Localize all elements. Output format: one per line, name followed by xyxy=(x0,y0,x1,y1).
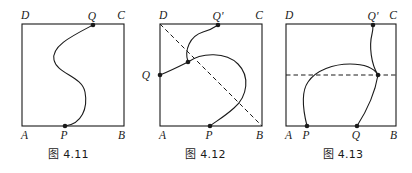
corner-label-top-left-fig-4-12: D xyxy=(158,9,168,21)
figure-caption-413: 图 4.13 xyxy=(274,145,412,161)
figure-sheet: DCABPQDCABPQQ'DCABPQQ' 图 4.11 图 4.12 图 4… xyxy=(0,0,412,173)
corner-label-top-right-fig-4-13: C xyxy=(389,9,397,21)
curve-branch-node-to-Qprime xyxy=(187,25,218,62)
corner-label-top-right-fig-4-11: C xyxy=(117,9,125,21)
corner-label-bottom-left-fig-4-12: A xyxy=(158,129,167,141)
corner-label-bottom-right-fig-4-12: B xyxy=(256,129,263,141)
frame-rect-fig-4-11 xyxy=(22,24,124,126)
curve-arch-P-over-to-node xyxy=(303,64,378,126)
curve-s-curve-PQ xyxy=(54,25,93,126)
corner-label-bottom-right-fig-4-11: B xyxy=(118,129,125,141)
corner-label-top-left-fig-4-11: D xyxy=(20,9,30,21)
point-marker-Q-fig-4-12 xyxy=(158,73,163,78)
point-marker-node3-fig-4-13 xyxy=(376,73,381,78)
point-marker-Q-fig-4-13 xyxy=(355,124,360,129)
point-label-Qprime-fig-4-12: Q' xyxy=(213,10,224,22)
point-label-Q-fig-4-13: Q xyxy=(352,129,361,141)
corner-label-top-right-fig-4-12: C xyxy=(255,9,263,21)
figure-caption-411: 图 4.11 xyxy=(0,145,137,161)
figure-group-fig-4-12: DCABPQQ' xyxy=(142,9,264,141)
curve-branch-Q-to-node xyxy=(160,62,188,75)
dashed-diagonal-D-to-B xyxy=(160,24,262,126)
point-marker-Qprime-fig-4-13 xyxy=(371,23,376,28)
point-marker-node3-fig-4-12 xyxy=(186,60,191,65)
figure-group-fig-4-11: DCABPQ xyxy=(20,9,125,141)
point-marker-Q-fig-4-11 xyxy=(91,23,96,28)
point-label-P-fig-4-12: P xyxy=(204,129,212,141)
corner-label-bottom-right-fig-4-13: B xyxy=(390,129,397,141)
corner-label-bottom-left-fig-4-11: A xyxy=(20,129,29,141)
point-marker-P-fig-4-12 xyxy=(208,124,213,129)
figure-caption-412: 图 4.12 xyxy=(137,145,274,161)
point-marker-P-fig-4-11 xyxy=(63,124,68,129)
point-marker-Qprime-fig-4-12 xyxy=(216,23,221,28)
point-label-P-fig-4-11: P xyxy=(59,129,67,141)
curve-node-down-to-Q xyxy=(357,75,378,126)
curve-branch-node-loop-to-P xyxy=(188,55,246,126)
point-label-Qprime-fig-4-13: Q' xyxy=(368,10,379,22)
corner-label-bottom-left-fig-4-13: A xyxy=(284,129,293,141)
figure-group-fig-4-13: DCABPQQ' xyxy=(284,9,397,141)
curve-node-up-to-Qprime xyxy=(371,25,378,75)
point-marker-P-fig-4-13 xyxy=(305,124,310,129)
point-label-Q-fig-4-12: Q xyxy=(142,69,151,81)
corner-label-top-left-fig-4-13: D xyxy=(284,9,294,21)
point-label-Q-fig-4-11: Q xyxy=(88,10,97,22)
point-label-P-fig-4-13: P xyxy=(301,129,309,141)
